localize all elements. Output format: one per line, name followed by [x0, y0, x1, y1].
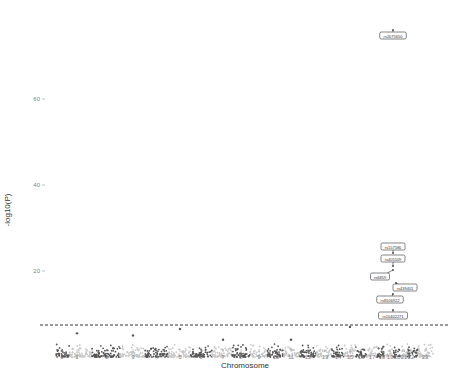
- snp-point: [111, 350, 113, 352]
- snp-point: [59, 347, 61, 349]
- snp-point: [235, 350, 237, 352]
- snp-point: [325, 350, 327, 352]
- snp-point: [81, 353, 83, 355]
- snp-point: [311, 356, 313, 358]
- snp-point: [408, 350, 410, 352]
- snp-point: [220, 348, 222, 350]
- snp-point: [117, 348, 119, 350]
- snp-point: [164, 350, 166, 352]
- snp-point: [128, 355, 130, 357]
- snp-point: [208, 351, 210, 353]
- snp-point: [300, 356, 302, 358]
- snp-point: [248, 355, 250, 357]
- snp-point: [430, 344, 432, 346]
- snp-point: [401, 350, 403, 352]
- snp-point: [250, 350, 252, 352]
- snp-point: [361, 348, 363, 350]
- snp-point: [333, 350, 335, 352]
- snp-point: [81, 354, 83, 356]
- snp-point: [302, 349, 304, 351]
- snp-point: [79, 344, 81, 346]
- x-tick-label: 10: [273, 354, 280, 360]
- snp-point: [429, 347, 431, 349]
- snp-point: [98, 356, 100, 358]
- snp-point: [132, 334, 134, 336]
- snp-point: [250, 348, 252, 350]
- snp-point: [292, 349, 294, 351]
- snp-point: [176, 351, 178, 353]
- snp-point: [398, 349, 400, 351]
- snp-point: [414, 350, 416, 352]
- snp-point: [350, 345, 352, 347]
- snp-point: [354, 350, 356, 352]
- snp-point: [205, 347, 207, 349]
- snp-point: [341, 348, 343, 350]
- snp-point: [135, 349, 137, 351]
- snp-point: [131, 347, 133, 349]
- snp-point: [254, 356, 256, 358]
- snp-point: [183, 354, 185, 356]
- snp-point: [308, 347, 310, 349]
- snp-point: [110, 356, 112, 358]
- snp-point: [267, 355, 269, 357]
- snp-point: [313, 356, 315, 358]
- snp-point: [76, 332, 78, 334]
- snp-point: [298, 353, 300, 355]
- snp-point: [327, 348, 329, 350]
- snp-point: [173, 352, 175, 354]
- snp-point: [287, 346, 289, 348]
- snp-point: [285, 351, 287, 353]
- snp-point: [209, 355, 211, 357]
- snp-point: [277, 345, 279, 347]
- snp-point: [347, 351, 349, 353]
- snp-point: [339, 348, 341, 350]
- data-points: [55, 326, 434, 358]
- snp-point: [92, 352, 94, 354]
- snp-point: [237, 344, 239, 346]
- snp-label: rs157580: [385, 245, 402, 250]
- snp-point: [66, 354, 68, 356]
- snp-point: [69, 353, 71, 355]
- snp-point: [57, 349, 59, 351]
- snp-point: [424, 344, 426, 346]
- snp-point: [253, 345, 255, 347]
- snp-point: [284, 347, 286, 349]
- snp-point: [119, 353, 121, 355]
- snp-point: [192, 353, 194, 355]
- snp-point: [264, 350, 266, 352]
- snp-point: [153, 350, 155, 352]
- x-tick-label: 5: [178, 354, 182, 360]
- snp-point: [94, 356, 96, 358]
- snp-point: [316, 345, 318, 347]
- snp-point: [262, 353, 264, 355]
- snp-point: [55, 353, 57, 355]
- snp-point: [307, 345, 309, 347]
- snp-point: [207, 345, 209, 347]
- snp-point: [118, 356, 120, 358]
- snp-point: [215, 356, 217, 358]
- snp-point: [268, 353, 270, 355]
- snp-point: [160, 355, 162, 357]
- snp-point: [141, 356, 143, 358]
- snp-point: [253, 350, 255, 352]
- snp-point: [142, 352, 144, 354]
- snp-point: [276, 349, 278, 351]
- snp-labels: rs2075650rs157580rs405509rs6859rs439401r…: [371, 29, 418, 319]
- snp-point: [244, 353, 246, 355]
- snp-point: [252, 356, 254, 358]
- snp-point: [329, 350, 331, 352]
- snp-point: [96, 350, 98, 352]
- snp-point: [102, 355, 104, 357]
- snp-point: [393, 350, 395, 352]
- snp-point: [224, 348, 226, 350]
- x-tick-label: 12: [305, 354, 312, 360]
- snp-point: [138, 355, 140, 357]
- snp-point: [110, 353, 112, 355]
- snp-point: [263, 347, 265, 349]
- snp-point: [165, 354, 167, 356]
- snp-point: [355, 346, 357, 348]
- snp-point: [126, 355, 128, 357]
- x-tick-label: 13: [322, 354, 329, 360]
- snp-point: [150, 348, 152, 350]
- snp-point: [189, 347, 191, 349]
